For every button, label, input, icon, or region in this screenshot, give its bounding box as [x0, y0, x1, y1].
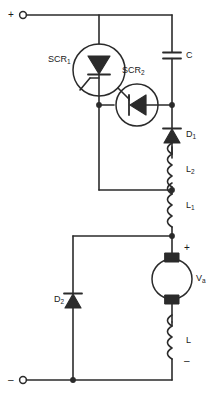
d1-triangle-icon: [164, 129, 180, 143]
inductor-l2-label: L2: [186, 165, 195, 174]
scr1-label-subscript: 1: [67, 58, 71, 65]
inductor-l2-label-subscript: 2: [191, 168, 195, 175]
motor-armature-circle: [152, 259, 192, 299]
diode-d2-label: D2: [54, 295, 64, 304]
scr1-branch: [73, 15, 125, 105]
scr1-label: SCR1: [48, 55, 71, 64]
negative-rail: [20, 377, 172, 384]
inductor-l1-label: L1: [186, 201, 195, 210]
motor-top-brush: [165, 253, 179, 262]
diode-d2-label-text: D: [54, 294, 61, 304]
scr2-branch: [96, 84, 172, 126]
diode-d1-label: D1: [186, 130, 196, 139]
scr1-gate-lead: [80, 78, 90, 90]
scr2-label: SCR2: [122, 66, 145, 75]
diode-d1-label-subscript: 1: [193, 133, 197, 140]
scr1-triangle-icon: [88, 56, 110, 74]
diode-d2: [64, 294, 82, 381]
capacitor-c-label: C: [186, 51, 193, 60]
inductor-l-series: [168, 315, 173, 380]
motor-plus-label: +: [184, 243, 190, 253]
junction-dot-d2-bottom: [70, 377, 76, 383]
inductor-l-label: L: [186, 336, 191, 345]
positive-terminal-label: +: [8, 10, 14, 20]
negative-terminal-node: [20, 377, 27, 384]
diode-d2-label-subscript: 2: [61, 298, 65, 305]
circuit-diagram-canvas: + – SCR1 SCR2 C D1 L2 L1 D2 + Va L –: [0, 0, 219, 401]
inductor-tap-branch: [99, 105, 175, 193]
motor-minus-label: –: [184, 356, 190, 366]
negative-terminal-label: –: [8, 375, 14, 385]
motor-voltage-label: Va: [196, 274, 206, 283]
motor-bottom-brush: [165, 295, 179, 304]
positive-rail: [20, 12, 172, 19]
positive-terminal-node: [20, 12, 27, 19]
inductor-l1-label-subscript: 1: [191, 204, 195, 211]
diode-d1-label-text: D: [186, 129, 193, 139]
capacitor-c-branch: [163, 15, 181, 108]
motor-voltage-label-subscript: a: [202, 277, 206, 284]
d2-triangle-icon: [65, 294, 81, 308]
scr2-triangle-icon: [130, 95, 146, 115]
scr1-label-text: SCR: [48, 54, 67, 64]
scr2-label-subscript: 2: [141, 69, 145, 76]
scr2-label-text: SCR: [122, 65, 141, 75]
